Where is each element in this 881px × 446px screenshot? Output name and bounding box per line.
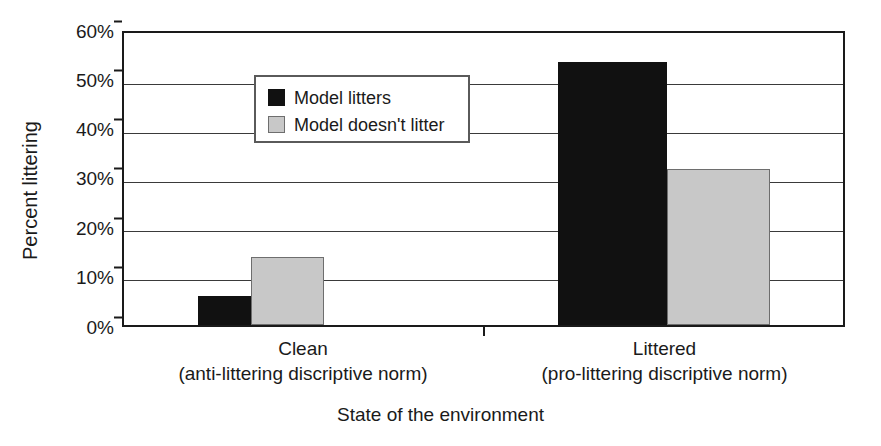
y-tick-label: 60% <box>76 21 114 42</box>
y-tick-10: 10% <box>0 268 114 287</box>
y-tick-label: 30% <box>76 168 114 189</box>
bar-chart-figure: 60% 50% 40% 30% 20% 10% 0% Percent litte… <box>0 0 881 446</box>
x-category-clean: Clean (anti-littering discriptive norm) <box>122 336 484 386</box>
y-tick-label: 0% <box>87 317 114 338</box>
y-tick-40: 40% <box>0 120 114 139</box>
legend-item-model-litters[interactable]: Model litters <box>268 84 468 111</box>
x-axis-title: State of the environment <box>0 404 881 426</box>
gridline-40 <box>124 133 843 134</box>
y-tick-label: 50% <box>76 70 114 91</box>
bar-littered-model-doesnt-litter[interactable] <box>667 169 770 325</box>
y-tick-label: 40% <box>76 119 114 140</box>
y-tick-0: 0% <box>0 318 114 337</box>
black-square-swatch-icon <box>268 89 285 106</box>
y-tick-mark <box>114 119 122 121</box>
y-tick-mark <box>114 21 122 23</box>
bar-clean-model-litters[interactable] <box>198 296 251 325</box>
x-category-littered: Littered (pro-littering discriptive norm… <box>484 336 845 386</box>
y-tick-mark <box>114 218 122 220</box>
bar-littered-model-litters[interactable] <box>558 62 667 325</box>
x-category-main-label: Littered <box>484 336 845 361</box>
y-tick-label: 10% <box>76 267 114 288</box>
y-tick-mark <box>114 168 122 170</box>
x-category-sub-label: (pro-littering discriptive norm) <box>484 361 845 386</box>
y-tick-30: 30% <box>0 169 114 188</box>
y-axis-title: Percent littering <box>19 91 42 291</box>
plot-area: Model litters Model doesn't litter <box>122 31 845 327</box>
legend: Model litters Model doesn't litter <box>254 75 470 143</box>
y-tick-mark <box>114 317 122 319</box>
y-tick-label: 20% <box>76 218 114 239</box>
y-tick-mark <box>114 267 122 269</box>
x-category-sub-label: (anti-littering discriptive norm) <box>122 361 484 386</box>
x-category-main-label: Clean <box>122 336 484 361</box>
y-axis: 60% 50% 40% 30% 20% 10% 0% Percent litte… <box>0 0 122 446</box>
bar-clean-model-doesnt-litter[interactable] <box>251 257 324 325</box>
x-tick-mark-group-divider <box>483 327 485 336</box>
y-tick-50: 50% <box>0 71 114 90</box>
legend-item-model-doesnt-litter[interactable]: Model doesn't litter <box>268 111 468 138</box>
gray-square-swatch-icon <box>268 116 285 133</box>
y-tick-60: 60% <box>0 22 114 41</box>
gridline-50 <box>124 84 843 85</box>
y-tick-20: 20% <box>0 219 114 238</box>
y-tick-mark <box>114 70 122 72</box>
legend-label: Model doesn't litter <box>294 116 445 134</box>
legend-label: Model litters <box>294 89 391 107</box>
